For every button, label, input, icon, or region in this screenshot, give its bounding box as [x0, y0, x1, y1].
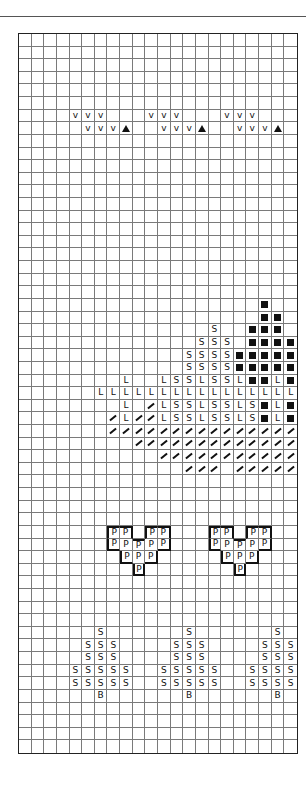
letter-s: S — [171, 665, 184, 678]
grid-cell — [120, 475, 133, 488]
grid-cell — [133, 740, 146, 753]
grid-cell — [272, 564, 285, 577]
grid-cell — [57, 198, 70, 211]
grid-cell — [284, 72, 297, 85]
letter-l: L — [145, 387, 158, 400]
grid-cell — [44, 387, 57, 400]
grid-cell — [259, 564, 272, 577]
grid-cell — [221, 84, 234, 97]
grid-cell — [171, 614, 184, 627]
letter-s: S — [209, 400, 222, 413]
grid-cell — [209, 703, 222, 716]
grid-cell — [221, 614, 234, 627]
letter-s: S — [272, 677, 285, 690]
letter-p: P — [120, 526, 133, 539]
grid-cell — [145, 450, 158, 463]
grid-cell — [120, 589, 133, 602]
grid-cell — [183, 248, 196, 261]
grid-cell — [70, 539, 83, 552]
grid-cell — [70, 463, 83, 476]
grid-cell — [145, 652, 158, 665]
grid-cell — [107, 614, 120, 627]
slash-icon — [272, 450, 285, 463]
grid-cell — [44, 728, 57, 741]
grid-cell — [246, 274, 259, 287]
grid-cell — [82, 84, 95, 97]
grid-cell — [19, 576, 32, 589]
grid-cell — [82, 97, 95, 110]
grid-cell — [133, 223, 146, 236]
letter-b: B — [183, 690, 196, 703]
grid-cell — [44, 248, 57, 261]
letter-p: P — [133, 564, 146, 577]
grid-cell — [158, 223, 171, 236]
grid-cell — [120, 236, 133, 249]
grid-cell — [95, 551, 108, 564]
grid-cell — [259, 627, 272, 640]
grid-cell — [171, 463, 184, 476]
grid-cell — [209, 715, 222, 728]
grid-cell — [246, 614, 259, 627]
grid-cell — [70, 438, 83, 451]
letter-l: L — [259, 387, 272, 400]
grid-cell — [32, 728, 45, 741]
square-icon — [284, 400, 297, 413]
grid-cell — [234, 337, 247, 350]
grid-cell — [259, 728, 272, 741]
grid-cell — [95, 312, 108, 325]
square-icon — [259, 312, 272, 325]
grid-cell — [221, 122, 234, 135]
grid-cell — [234, 286, 247, 299]
grid-cell — [209, 639, 222, 652]
grid-cell — [120, 513, 133, 526]
grid-cell — [272, 148, 285, 161]
grid-cell — [272, 286, 285, 299]
grid-cell — [82, 173, 95, 186]
grid-cell — [44, 665, 57, 678]
grid-cell — [183, 614, 196, 627]
v-mark-icon: v — [183, 122, 196, 135]
grid-cell — [259, 614, 272, 627]
grid-cell — [32, 450, 45, 463]
grid-cell — [209, 728, 222, 741]
grid-cell — [32, 34, 45, 47]
square-icon — [272, 324, 285, 337]
grid-cell — [234, 513, 247, 526]
grid-cell — [145, 513, 158, 526]
slash-icon — [171, 450, 184, 463]
grid-cell — [95, 160, 108, 173]
grid-cell — [32, 488, 45, 501]
letter-p: P — [133, 539, 146, 552]
grid-cell — [44, 475, 57, 488]
grid-cell — [120, 173, 133, 186]
grid-cell — [19, 274, 32, 287]
grid-cell — [107, 349, 120, 362]
letter-s: S — [171, 400, 184, 413]
grid-cell — [19, 551, 32, 564]
grid-cell — [284, 148, 297, 161]
grid-cell — [70, 148, 83, 161]
grid-cell — [133, 576, 146, 589]
grid-cell — [133, 299, 146, 312]
grid-cell — [209, 564, 222, 577]
grid-cell — [171, 627, 184, 640]
grid-cell — [82, 412, 95, 425]
letter-l: L — [196, 412, 209, 425]
grid-cell — [171, 248, 184, 261]
grid-cell — [158, 715, 171, 728]
grid-cell — [107, 84, 120, 97]
grid-cell — [70, 690, 83, 703]
grid-cell — [95, 576, 108, 589]
grid-cell — [19, 198, 32, 211]
grid-cell — [82, 274, 95, 287]
grid-cell — [234, 299, 247, 312]
grid-cell — [57, 539, 70, 552]
slash-icon — [107, 425, 120, 438]
grid-cell — [221, 160, 234, 173]
grid-cell — [234, 652, 247, 665]
grid-cell — [107, 589, 120, 602]
square-icon — [246, 324, 259, 337]
grid-cell — [19, 59, 32, 72]
grid-cell — [120, 564, 133, 577]
grid-cell — [246, 475, 259, 488]
